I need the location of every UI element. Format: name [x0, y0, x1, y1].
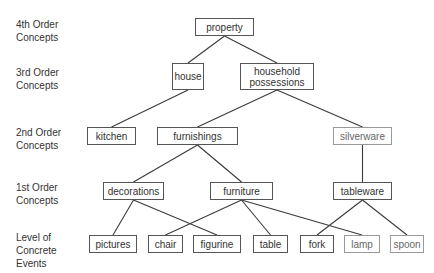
edge-decorations-pictures — [113, 200, 134, 235]
node-figurine: figurine — [193, 235, 241, 253]
edge-tableware-fork — [317, 200, 363, 235]
edge-household_possessions-furnishings — [198, 90, 278, 127]
node-tableware: tableware — [333, 182, 392, 200]
level-label-4th-order: 4th Order Concepts — [16, 18, 58, 44]
node-household-possessions: household possessions — [240, 63, 314, 90]
level-label-3rd-order: 3rd Order Concepts — [16, 66, 59, 92]
node-fork: fork — [300, 235, 334, 253]
edge-house-kitchen — [112, 90, 189, 127]
edge-household_possessions-silverware — [277, 90, 363, 127]
node-furniture: furniture — [210, 182, 273, 200]
node-house: house — [172, 63, 204, 90]
edge-furniture-lamp — [242, 200, 363, 235]
node-lamp: lamp — [344, 235, 380, 253]
node-furnishings: furnishings — [157, 127, 238, 145]
level-label-concrete-events: Level of Concrete Events — [16, 231, 57, 270]
node-chair: chair — [148, 235, 183, 253]
node-silverware: silverware — [333, 127, 392, 145]
edge-furnishings-furniture — [198, 145, 242, 182]
edge-furniture-table — [242, 200, 271, 235]
level-label-2nd-order: 2nd Order Concepts — [16, 126, 61, 152]
edge-tableware-spoon — [363, 200, 408, 235]
node-kitchen: kitchen — [87, 127, 136, 145]
node-property: property — [195, 18, 254, 36]
edge-property-household_possessions — [225, 36, 278, 63]
node-table: table — [253, 235, 288, 253]
node-spoon: spoon — [390, 235, 424, 253]
level-label-1st-order: 1st Order Concepts — [16, 181, 58, 207]
node-pictures: pictures — [89, 235, 137, 253]
node-decorations: decorations — [103, 182, 164, 200]
edge-property-house — [188, 36, 225, 63]
edge-furnishings-decorations — [134, 145, 198, 182]
